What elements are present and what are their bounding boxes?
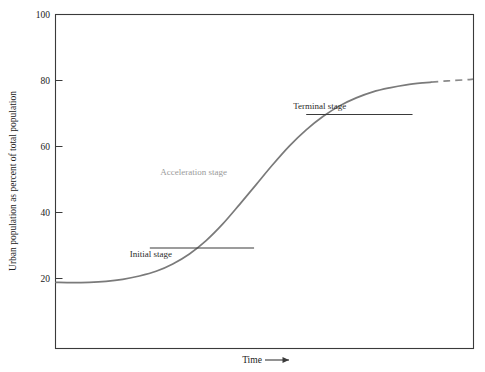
y-tick-label-40: 40 <box>41 208 51 218</box>
y-tick-label-80: 80 <box>41 76 51 86</box>
acceleration-stage-label: Acceleration stage <box>160 167 227 177</box>
y-tick-label-20: 20 <box>41 274 51 284</box>
y-axis-title: Urban population as percent of total pop… <box>8 91 18 271</box>
chart-figure: 100 80 60 40 20 Urban population as perc… <box>0 0 485 372</box>
urbanization-s-curve-chart: 100 80 60 40 20 Urban population as perc… <box>0 0 485 372</box>
terminal-stage-label: Terminal stage <box>293 101 346 111</box>
y-tick-label-60: 60 <box>41 142 51 152</box>
initial-stage-label: Initial stage <box>130 249 172 259</box>
chart-background <box>0 0 485 372</box>
x-axis-title: Time <box>242 355 262 365</box>
y-tick-label-100: 100 <box>36 10 51 20</box>
annotation-acceleration-stage: Acceleration stage <box>160 167 227 177</box>
